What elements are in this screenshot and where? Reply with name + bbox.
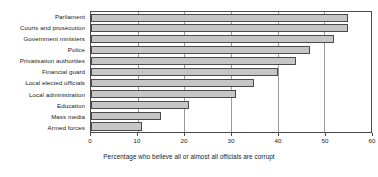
bar-row: [91, 35, 371, 43]
category-label: Parliament: [0, 11, 88, 22]
bar-row: [91, 90, 371, 98]
bar: [91, 14, 348, 22]
bar-row: [91, 101, 371, 109]
x-tick-label: 10: [134, 136, 141, 145]
bar-row: [91, 14, 371, 22]
x-tick-label: 20: [181, 136, 188, 145]
category-label: Armed forces: [0, 122, 88, 133]
bar: [91, 24, 348, 32]
bar-row: [91, 68, 371, 76]
x-tick-label: 50: [322, 136, 329, 145]
plot-area: [90, 11, 372, 133]
bar-row: [91, 79, 371, 87]
bar-row: [91, 112, 371, 120]
bar: [91, 46, 310, 54]
bar-row: [91, 122, 371, 130]
category-label: Courts and prosecution: [0, 22, 88, 33]
category-axis-labels: ParliamentCourts and prosecutionGovernme…: [0, 11, 88, 133]
bars-layer: [91, 12, 371, 132]
bar: [91, 35, 334, 43]
x-axis-title: Percentage who believe all or almost all…: [0, 153, 378, 160]
x-tick-label: 0: [88, 136, 91, 145]
bar: [91, 68, 278, 76]
category-label: Mass media: [0, 111, 88, 122]
bar-row: [91, 24, 371, 32]
x-axis-tick-labels: 0102030405060: [90, 136, 372, 146]
category-label: Financial guard: [0, 66, 88, 77]
bar: [91, 57, 296, 65]
bar: [91, 101, 189, 109]
bar-chart: ParliamentCourts and prosecutionGovernme…: [0, 0, 378, 177]
bar: [91, 122, 142, 130]
x-tick-label: 30: [228, 136, 235, 145]
x-tick-label: 40: [275, 136, 282, 145]
bar: [91, 112, 161, 120]
category-label: Education: [0, 100, 88, 111]
category-label: Privatisation authorities: [0, 55, 88, 66]
category-label: Local administration: [0, 89, 88, 100]
bar: [91, 79, 254, 87]
bar-row: [91, 46, 371, 54]
bar-row: [91, 57, 371, 65]
x-tick-label: 60: [369, 136, 376, 145]
category-label: Government ministers: [0, 33, 88, 44]
category-label: Police: [0, 44, 88, 55]
bar: [91, 90, 236, 98]
category-label: Local elected officials: [0, 77, 88, 88]
